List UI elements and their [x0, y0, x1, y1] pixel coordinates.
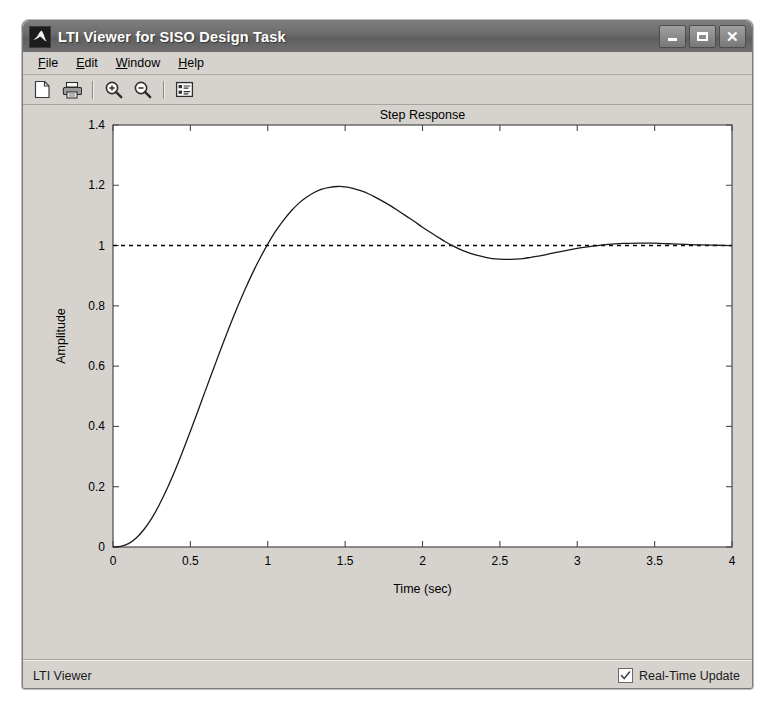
menu-item-help[interactable]: Help: [169, 54, 213, 72]
x-tick-label: 3.5: [646, 554, 663, 568]
toolbar-separator-2: [163, 81, 164, 99]
zoom-in-icon: [104, 80, 123, 99]
x-axis-label: Time (sec): [393, 582, 452, 596]
x-tick-label: 2.5: [492, 554, 509, 568]
real-time-update-control[interactable]: Real-Time Update: [618, 668, 740, 683]
x-tick-label: 2: [419, 554, 426, 568]
minimize-icon: [668, 38, 677, 41]
properties-icon: [175, 81, 194, 98]
minimize-button[interactable]: [659, 25, 686, 48]
x-tick-label: 1.5: [337, 554, 354, 568]
menu-item-window-rest: indow: [128, 56, 161, 70]
close-button[interactable]: ✕: [719, 25, 746, 48]
menu-item-edit-rest: dit: [85, 56, 98, 70]
close-icon: ✕: [726, 29, 739, 44]
menu-item-window[interactable]: Window: [107, 54, 169, 72]
zoom-in-button[interactable]: [100, 77, 127, 103]
x-tick-label: 4: [729, 554, 736, 568]
y-tick-label: 1.2: [88, 178, 105, 192]
new-document-icon: [34, 80, 51, 99]
new-document-button[interactable]: [29, 77, 56, 103]
toolbar: [23, 75, 752, 105]
y-tick-label: 1: [98, 239, 105, 253]
y-tick-label: 0.2: [88, 480, 105, 494]
menu-item-file[interactable]: File: [29, 54, 67, 72]
menu-bar: File Edit Window Help: [23, 52, 752, 75]
status-text: LTI Viewer: [33, 669, 92, 683]
properties-button[interactable]: [171, 77, 198, 103]
y-tick-label: 0.8: [88, 299, 105, 313]
maximize-icon: [697, 32, 708, 41]
real-time-update-label: Real-Time Update: [639, 669, 740, 683]
chart-title: Step Response: [380, 108, 466, 122]
chart-plot-area: [113, 125, 732, 547]
menu-item-file-rest: ile: [46, 56, 59, 70]
x-tick-label: 0.5: [182, 554, 199, 568]
plot-panel[interactable]: 00.511.522.533.54 00.20.40.60.811.21.4 S…: [23, 105, 752, 660]
window-title: LTI Viewer for SISO Design Task: [58, 29, 659, 45]
screenshot-root: LTI Viewer for SISO Design Task ✕ File E…: [0, 0, 775, 706]
status-bar: LTI Viewer Real-Time Update: [23, 660, 752, 689]
y-axis-label: Amplitude: [54, 308, 68, 364]
x-tick-label: 3: [574, 554, 581, 568]
maximize-button[interactable]: [689, 25, 716, 48]
zoom-out-icon: [133, 80, 152, 99]
y-tick-label: 0.4: [88, 419, 105, 433]
y-tick-label: 0: [98, 540, 105, 554]
lti-viewer-window: LTI Viewer for SISO Design Task ✕ File E…: [22, 20, 753, 689]
menu-item-help-rest: elp: [187, 56, 204, 70]
matlab-membrane-icon: [29, 26, 51, 48]
y-tick-label: 0.6: [88, 359, 105, 373]
print-button[interactable]: [58, 77, 85, 103]
window-controls: ✕: [659, 25, 748, 48]
print-icon: [62, 81, 82, 99]
title-bar: LTI Viewer for SISO Design Task ✕: [23, 21, 752, 52]
real-time-update-checkbox[interactable]: [618, 668, 633, 683]
y-tick-label: 1.4: [88, 118, 105, 132]
zoom-out-button[interactable]: [129, 77, 156, 103]
menu-item-edit[interactable]: Edit: [67, 54, 107, 72]
x-tick-label: 0: [110, 554, 117, 568]
toolbar-separator-1: [92, 81, 93, 99]
x-tick-label: 1: [264, 554, 271, 568]
checkmark-icon: [620, 670, 631, 681]
step-response-chart[interactable]: 00.511.522.533.54 00.20.40.60.811.21.4 S…: [23, 105, 752, 659]
